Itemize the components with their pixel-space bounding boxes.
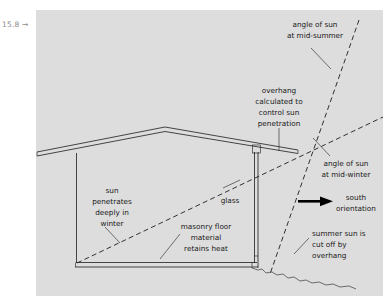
masonry-line-2: material [191,233,221,242]
south-arrow-icon [298,196,333,206]
roof-bottom-line [37,132,298,157]
figure-root: 15.8 → [0,0,392,306]
leader-summer-cutoff [294,238,309,254]
annotation-glass: glass [221,196,240,205]
leader-masonry-floor [160,234,180,259]
mid-winter-line-1: angle of sun [324,159,369,168]
annotation-overhang: overhang calculated to control sun penet… [255,86,303,128]
south-line-1: south [346,193,366,202]
leader-mid-winter [313,138,330,156]
winter-penetration-line-3: deeply in [95,208,129,217]
annotation-masonry-floor: masonry floor material retains heat [181,222,232,253]
annotation-mid-summer: angle of sun at mid-summer [287,20,343,40]
summer-cutoff-line-2: cut off by [312,240,347,249]
overhang-line-1: overhang [262,86,297,95]
annotation-south-orientation: south orientation [336,193,376,213]
leader-glass [223,180,240,188]
glass-label: glass [221,196,240,205]
mid-summer-line-1: angle of sun [293,20,338,29]
annotation-summer-cutoff: summer sun is cut off by overhang [312,229,366,260]
masonry-line-3: retains heat [184,244,228,253]
annotation-winter-penetration: sun penetrates deeply in winter [92,186,132,228]
summer-cutoff-line-1: summer sun is [312,229,366,238]
mid-winter-line-2: at mid-winter [321,170,370,179]
overhang-line-2: calculated to [255,97,303,106]
winter-penetration-line-4: winter [101,219,124,228]
summer-cutoff-line-3: overhang [312,251,347,260]
annotation-mid-winter: angle of sun at mid-winter [321,159,370,179]
ground-line [252,268,356,289]
south-line-2: orientation [336,204,376,213]
masonry-line-1: masonry floor [181,222,232,231]
overhang-line-3: control sun [259,108,300,117]
leader-winter-penetration [105,227,120,243]
section-drawing: angle of sun at mid-summer overhang calc… [0,0,392,306]
winter-penetration-line-1: sun [105,186,118,195]
overhang-line-4: penetration [258,119,301,128]
mid-summer-line-2: at mid-summer [287,31,343,40]
leader-mid-summer [311,48,331,69]
winter-penetration-line-2: penetrates [92,197,132,206]
